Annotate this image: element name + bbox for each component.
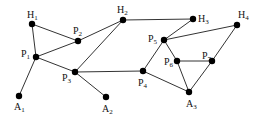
node-p3 [72, 69, 78, 75]
label-a1: A1 [14, 101, 25, 114]
edge-p2-h2 [78, 20, 123, 41]
node-h4 [234, 22, 240, 28]
label-a3: A3 [186, 98, 197, 111]
edge-p1-p2 [36, 41, 78, 57]
node-p2 [75, 38, 81, 44]
node-a1 [16, 93, 22, 99]
label-p4: P4 [138, 77, 148, 90]
edge-h2-h3 [123, 19, 193, 20]
label-a2: A2 [102, 103, 113, 116]
edge-h1-p1 [32, 24, 36, 57]
edge-h2-p3 [75, 20, 123, 72]
edge-p1-a1 [19, 57, 36, 96]
edge-p7-a3 [189, 61, 212, 92]
label-h1: H1 [27, 9, 38, 22]
node-p6 [174, 58, 180, 64]
label-p1: P1 [21, 48, 31, 61]
label-p5: P5 [148, 33, 158, 46]
edge-p3-a2 [75, 72, 106, 97]
label-p2: P2 [73, 25, 83, 38]
label-h4: H4 [238, 9, 249, 22]
label-p3: P3 [62, 72, 72, 85]
label-h3: H3 [198, 13, 209, 26]
edge-h1-p2 [32, 24, 78, 41]
edge-p1-p3 [36, 57, 75, 72]
label-h2: H2 [117, 4, 128, 17]
node-h2 [120, 17, 126, 23]
edge-h4-p7 [212, 25, 237, 61]
node-h3 [190, 16, 196, 22]
node-p4 [140, 68, 146, 74]
node-a2 [103, 94, 109, 100]
label-p6: P6 [164, 56, 174, 69]
node-a3 [186, 89, 192, 95]
network-diagram: H1P2P1A1H2P3A2H3H4P5P6P7P4A3 [0, 0, 264, 121]
edge-p3-p4 [75, 71, 143, 72]
node-p1 [33, 54, 39, 60]
node-p5 [161, 37, 167, 43]
